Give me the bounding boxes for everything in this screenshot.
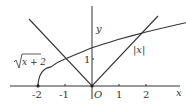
y-axis-label: y [95, 23, 102, 34]
x-tick-label-2: 2 [143, 89, 149, 100]
sqrt-label: x + 2 [14, 54, 46, 68]
y-tick-label-1: 1 [84, 54, 90, 65]
sqrt-x-plus-2-curve [38, 23, 186, 86]
x-axis-label: x [176, 87, 182, 98]
sqrt-label-text: x + 2 [22, 57, 46, 67]
origin-label: O [94, 89, 102, 100]
x-tick-label-neg1: -1 [59, 89, 69, 100]
point-neg2 [36, 84, 39, 87]
x-tick-label-1: 1 [116, 89, 122, 100]
abs-x-label: |x| [133, 44, 145, 56]
function-graph: y 1 O 1 2 x -2 -1 |x| x + 2 [0, 0, 186, 107]
point-origin [90, 84, 93, 87]
x-tick-label-neg2: -2 [32, 89, 42, 100]
